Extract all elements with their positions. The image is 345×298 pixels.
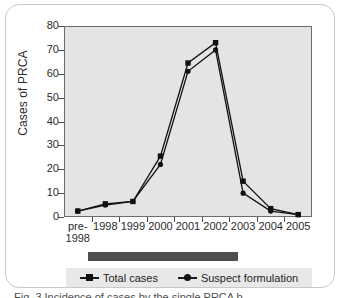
legend-label-suspect-formulation: Suspect formulation — [201, 272, 298, 284]
y-tick-label: 60 — [33, 68, 59, 79]
y-tick-mark — [58, 98, 64, 99]
legend-label-total-cases: Total cases — [103, 272, 158, 284]
figure-caption: Fig. 3 Incidence of cases by the single … — [14, 291, 330, 298]
chart-legend: Total cases Suspect formulation — [66, 268, 312, 287]
y-tick-label: 80 — [33, 20, 59, 31]
y-tick-mark — [58, 26, 64, 27]
legend-item-suspect-formulation: Suspect formulation — [178, 272, 298, 284]
x-tick-mark — [257, 217, 258, 222]
y-axis-title: Cases of PRCA — [16, 23, 30, 163]
y-tick-mark — [58, 50, 64, 51]
emphasis-bar — [88, 252, 238, 261]
y-tick-label: 70 — [33, 44, 59, 55]
x-tick-mark — [202, 217, 203, 222]
x-tick-label: 2005 — [277, 221, 319, 233]
y-tick-label: 0 — [33, 211, 59, 222]
x-tick-mark — [229, 217, 230, 222]
circle-marker-icon — [178, 273, 197, 282]
y-tick-mark — [58, 145, 64, 146]
x-tick-mark — [174, 217, 175, 222]
x-tick-mark — [284, 217, 285, 222]
legend-item-total-cases: Total cases — [80, 272, 158, 284]
x-tick-mark — [92, 217, 93, 222]
y-tick-label: 30 — [33, 139, 59, 150]
x-tick-mark — [147, 217, 148, 222]
y-tick-mark — [58, 217, 64, 218]
x-tick-label-line: 2005 — [277, 221, 319, 233]
y-tick-mark — [58, 122, 64, 123]
y-tick-mark — [58, 193, 64, 194]
y-tick-label: 20 — [33, 163, 59, 174]
x-tick-mark — [119, 217, 120, 222]
x-tick-label-line: 1998 — [57, 233, 99, 245]
prca-incidence-chart: Cases of PRCA 01020304050607080 pre-1998… — [0, 0, 345, 298]
y-tick-label: 10 — [33, 187, 59, 198]
plot-area — [64, 26, 312, 217]
square-marker-icon — [80, 273, 99, 282]
y-tick-mark — [58, 169, 64, 170]
y-tick-mark — [58, 74, 64, 75]
y-tick-label: 50 — [33, 92, 59, 103]
y-tick-label: 40 — [33, 116, 59, 127]
